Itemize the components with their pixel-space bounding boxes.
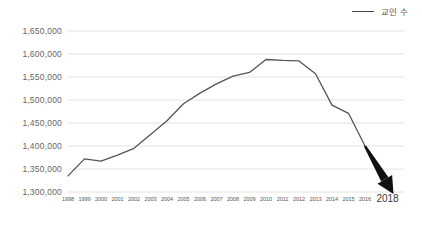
plot-area xyxy=(0,0,422,226)
gridlines xyxy=(68,31,404,192)
chart-container: 교인 수 1,650,0001,600,0001,550,0001,500,00… xyxy=(0,0,422,226)
decline-arrow-annotation xyxy=(364,145,394,194)
